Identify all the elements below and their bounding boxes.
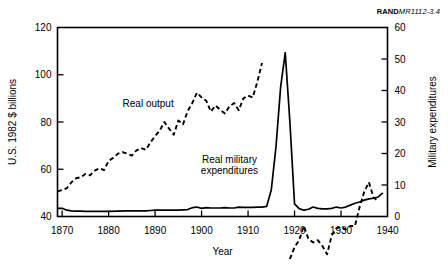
x-tick-label: 1870	[51, 225, 74, 236]
chart-plot: 406080100120 0102030405060 1870188018901…	[0, 0, 448, 280]
series-line	[290, 182, 378, 259]
bottom-axis-tick-labels: 18701880189019001910192019301940	[51, 225, 399, 236]
right-tick-label: 0	[395, 211, 401, 222]
x-tick-label: 1880	[98, 225, 121, 236]
x-tick-label: 1940	[376, 225, 399, 236]
series-annotation: expenditures	[201, 165, 258, 176]
right-tick-label: 50	[395, 54, 407, 65]
x-axis-title: Year	[212, 246, 233, 257]
left-tick-label: 40	[40, 211, 52, 222]
y2-axis-title: Military expenditures	[427, 76, 438, 168]
left-tick-label: 120	[35, 22, 52, 33]
x-tick-label: 1900	[190, 225, 213, 236]
right-tick-label: 10	[395, 180, 407, 191]
left-tick-label: 100	[35, 69, 52, 80]
right-tick-label: 20	[395, 148, 407, 159]
left-axis-tick-labels: 406080100120	[35, 22, 52, 222]
left-tick-label: 60	[40, 164, 52, 175]
y-axis-title: U.S. 1982 $ billions	[7, 79, 18, 165]
chart-figure: RANDMR1112-3.4 406080100120 010203040506…	[0, 0, 448, 280]
left-tick-label: 80	[40, 117, 52, 128]
left-axis-ticks	[58, 75, 64, 170]
series-annotation: Real output	[123, 98, 174, 109]
right-axis-ticks	[382, 59, 388, 185]
plot-frame	[58, 28, 388, 217]
right-axis-tick-labels: 0102030405060	[395, 22, 407, 222]
series-line	[58, 53, 383, 212]
right-tick-label: 30	[395, 117, 407, 128]
x-tick-label: 1890	[144, 225, 167, 236]
x-tick-label: 1910	[237, 225, 260, 236]
right-tick-label: 60	[395, 22, 407, 33]
right-tick-label: 40	[395, 85, 407, 96]
